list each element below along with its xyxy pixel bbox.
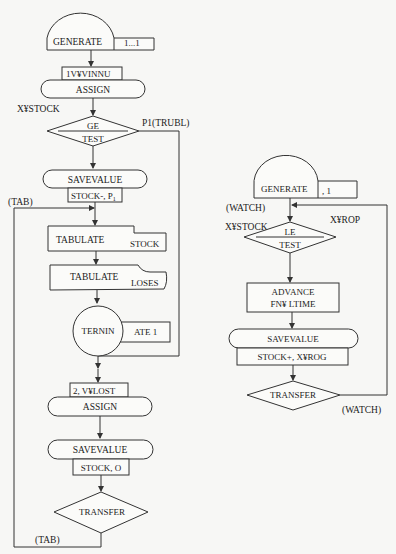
test-ge-operand-left: X¥STOCK (17, 104, 60, 114)
assign-label: ASSIGN (83, 402, 117, 412)
transfer-target-label: (TAB) (35, 535, 60, 546)
generate-operand: , 1 (322, 186, 331, 196)
savevalue-operand: STOCK-, P1 (71, 191, 116, 202)
tabulate-stock-block: TABULATE STOCK (48, 226, 166, 251)
tabulate-label: TABULATE (70, 272, 119, 282)
savevalue-label: SAVEVALUE (73, 445, 128, 455)
transfer-block-right: TRANSFER (WATCH) (247, 381, 381, 416)
terminate-label: TERNIN (82, 326, 115, 336)
savevalue-label: SAVEVALUE (68, 175, 123, 185)
tabulate-label: TABULATE (56, 235, 105, 245)
savevalue-block-2: SAVEVALUE STOCK, O (48, 440, 153, 475)
assign-operand: 2, V¥LOST (73, 386, 116, 396)
transfer-label: TRANSFER (79, 507, 125, 517)
transfer-label: TRANSFER (270, 390, 316, 400)
assign-label: ASSIGN (76, 85, 110, 95)
test-le-operand-right: X¥ROP (330, 215, 360, 225)
tabulate-loses-block: TABULATE LOSES (50, 265, 167, 290)
loop-line-tab (14, 208, 101, 547)
generate-block-left: GENERATE 1...1 (47, 13, 154, 50)
terminate-block: TERNIN ATE 1 (73, 306, 170, 356)
savevalue-label: SAVEVALUE (267, 334, 319, 344)
assign-operand: 1V¥VINNU (66, 69, 111, 79)
tabulate-operand: LOSES (131, 278, 159, 288)
savevalue-operand: STOCK, O (81, 463, 122, 473)
savevalue-block-1: SAVEVALUE STOCK-, P1 (43, 170, 147, 202)
advance-block: ADVANCE FN¥ LTIME (247, 283, 339, 312)
savevalue-block-right: SAVEVALUE STOCK+, X¥ROG (229, 329, 358, 365)
flowchart-canvas: GENERATE 1...1 1V¥VINNU ASSIGN X¥STOCK G… (0, 0, 396, 554)
transfer-block-left: TRANSFER (TAB) (35, 492, 148, 546)
terminate-operand: ATE 1 (134, 327, 157, 337)
test-le-block: X¥STOCK X¥ROP LE TEST (225, 215, 360, 253)
assign-block-2: 2, V¥LOST ASSIGN (48, 383, 152, 416)
generate-label: GENERATE (261, 184, 308, 194)
transfer-target-label: (WATCH) (342, 405, 381, 416)
assign-block-1: 1V¥VINNU ASSIGN (41, 67, 145, 98)
test-ge-branch-label: P1(TRUBL) (142, 118, 190, 129)
advance-operand: FN¥ LTIME (271, 299, 316, 309)
test-le-label-bottom: TEST (279, 240, 301, 250)
test-ge-label-bottom: TEST (82, 134, 104, 144)
advance-label: ADVANCE (272, 287, 315, 297)
savevalue-operand: STOCK+, X¥ROG (258, 352, 327, 362)
tabulate-operand: STOCK (130, 239, 160, 249)
generate-block-right: GENERATE , 1 (254, 155, 357, 198)
generate-label: GENERATE (53, 37, 102, 47)
test-le-operand-left: X¥STOCK (225, 222, 268, 232)
test-ge-label-top: GE (87, 121, 99, 131)
test-ge-block: X¥STOCK GE TEST P1(TRUBL) (17, 104, 190, 146)
generate-operand: 1...1 (124, 38, 140, 48)
test-le-label-top: LE (285, 227, 296, 237)
tab-entry-label: (TAB) (8, 197, 33, 208)
watch-entry-label: (WATCH) (226, 203, 265, 214)
